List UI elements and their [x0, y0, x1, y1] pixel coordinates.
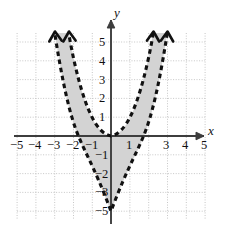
x-tick-label--4: −4 — [28, 139, 41, 152]
graph-figure: −5 −4 −3 −2 −1 1 3 4 5 5 4 3 2 1 −1 −2 −… — [0, 0, 231, 236]
x-tick-label--2: −2 — [66, 139, 79, 152]
x-tick-label-1: 1 — [126, 139, 132, 152]
y-tick-label-5: 5 — [99, 36, 105, 49]
x-tick-label-5: 5 — [201, 139, 207, 152]
y-tick-label--2: −2 — [95, 168, 108, 181]
y-tick-label-3: 3 — [99, 74, 105, 87]
coordinate-plane — [0, 0, 231, 236]
x-tick-label-3: 3 — [163, 139, 169, 152]
y-axis-label: y — [114, 6, 120, 19]
y-tick-label--5: −5 — [95, 205, 108, 218]
x-tick-label-4: 4 — [182, 139, 188, 152]
y-tick-label--3: −3 — [95, 186, 108, 199]
x-axis-label: x — [208, 124, 214, 137]
x-tick-label--3: −3 — [47, 139, 60, 152]
y-tick-label-2: 2 — [99, 92, 105, 105]
y-tick-label-4: 4 — [99, 55, 105, 68]
y-tick-label--1: −1 — [95, 149, 108, 162]
y-tick-label-1: 1 — [99, 111, 105, 124]
y-axis-arrowhead — [107, 20, 115, 28]
x-tick-label--5: −5 — [10, 139, 23, 152]
